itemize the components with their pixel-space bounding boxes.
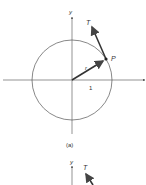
figure-a: y T P r 1 (a) (3, 9, 145, 148)
radius-vector (72, 61, 103, 80)
point-label: P (111, 55, 116, 62)
caption-a: (a) (66, 142, 73, 148)
figure-b: y T (69, 159, 93, 185)
y-axis-label-b: y (69, 159, 74, 165)
point-p (104, 57, 107, 60)
tangent-vector-b (86, 174, 93, 185)
tangent-label: T (86, 19, 91, 26)
figure-canvas: y T P r 1 (a) y T (0, 0, 146, 185)
y-axis-label: y (68, 9, 73, 15)
tangent-label-b: T (83, 164, 88, 171)
tangent-vector (92, 27, 106, 59)
unit-label: 1 (89, 85, 93, 91)
